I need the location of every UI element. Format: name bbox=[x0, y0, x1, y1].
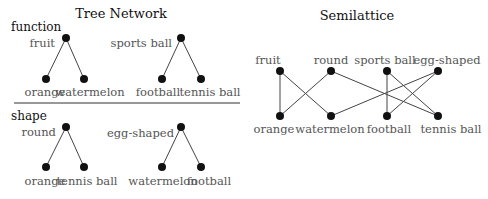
label-sports-ball: sports ball bbox=[111, 36, 173, 50]
label-watermelon: watermelon bbox=[295, 122, 365, 136]
label-football: football bbox=[136, 85, 181, 99]
node-watermelon bbox=[80, 75, 88, 83]
node-round bbox=[327, 67, 335, 75]
node-egg-shaped bbox=[177, 123, 185, 131]
section-label-function: function bbox=[11, 20, 62, 34]
node-watermelon bbox=[158, 163, 166, 171]
tree-network-title: Tree Network bbox=[75, 6, 167, 21]
label-watermelon: watermelon bbox=[55, 85, 125, 99]
node-egg-shaped bbox=[434, 67, 442, 75]
node-orange bbox=[276, 112, 284, 120]
label-tennis-ball: tennis ball bbox=[420, 122, 481, 136]
label-tennis-ball: tennis ball bbox=[56, 174, 117, 188]
semilattice-edges bbox=[280, 71, 438, 116]
label-tennis-ball: tennis ball bbox=[179, 85, 240, 99]
label-egg-shaped: egg-shaped bbox=[107, 126, 175, 140]
node-orange bbox=[42, 163, 50, 171]
node-football bbox=[158, 75, 166, 83]
label-fruit: fruit bbox=[255, 53, 281, 67]
node-tennis-ball bbox=[197, 75, 205, 83]
label-football: football bbox=[367, 122, 412, 136]
node-sports-ball bbox=[177, 34, 185, 42]
diagram-canvas: Tree Network Semilattice function fruit … bbox=[0, 0, 488, 199]
label-egg-shaped: egg-shaped bbox=[413, 53, 481, 67]
label-round: round bbox=[21, 125, 56, 139]
label-orange: orange bbox=[254, 122, 295, 136]
node-football bbox=[383, 112, 391, 120]
node-fruit bbox=[62, 34, 70, 42]
node-football bbox=[197, 163, 205, 171]
node-orange bbox=[42, 75, 50, 83]
label-fruit: fruit bbox=[30, 36, 56, 50]
label-round: round bbox=[314, 53, 349, 67]
section-label-shape: shape bbox=[11, 109, 47, 123]
label-sports-ball: sports ball bbox=[354, 53, 416, 67]
semilattice-title: Semilattice bbox=[320, 8, 395, 23]
node-round bbox=[62, 123, 70, 131]
node-watermelon bbox=[327, 112, 335, 120]
node-tennis-ball bbox=[80, 163, 88, 171]
node-sports-ball bbox=[383, 67, 391, 75]
node-fruit bbox=[276, 67, 284, 75]
label-football: football bbox=[187, 174, 232, 188]
node-tennis-ball bbox=[434, 112, 442, 120]
